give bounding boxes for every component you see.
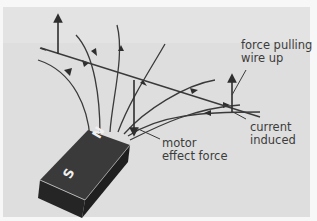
label-force-pulling-line2: wire up [241,52,283,65]
magnetic-field-diagram [0,0,317,221]
arrowhead-icon [91,48,97,56]
field-line [130,105,240,140]
field-line [38,60,90,138]
arrowhead-icon [190,88,198,94]
bar-magnet [38,130,130,218]
wire [41,48,260,117]
label-current-line2: induced [250,134,296,147]
label-motor-line2: effect force [162,150,228,163]
field-line [76,35,100,134]
field-line [118,44,165,132]
leader-motor [136,128,160,139]
arrowhead-icon [64,68,72,76]
leader-current [233,112,246,119]
field-line [110,25,120,132]
leader-force-pulling [232,70,246,95]
